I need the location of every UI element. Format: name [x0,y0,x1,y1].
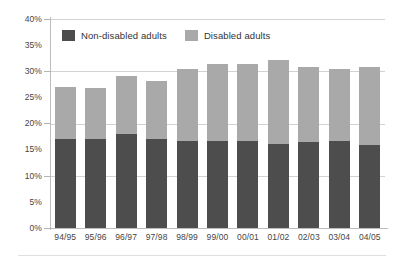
footer-divider [18,255,386,256]
legend-label: Non-disabled adults [81,30,167,41]
chart-legend: Non-disabled adults Disabled adults [62,28,270,42]
x-axis-tick-label: 04/05 [352,232,388,242]
legend-swatch-icon [185,30,198,41]
legend-item-non-disabled-adults: Non-disabled adults [62,30,167,41]
legend-item-disabled-adults: Disabled adults [185,30,270,41]
legend-label: Disabled adults [204,30,270,41]
chart-container: 40% 35% 30% 25% 20% 15% 10% 5% 0% 94/959… [0,0,403,263]
legend-swatch-icon [62,30,75,41]
